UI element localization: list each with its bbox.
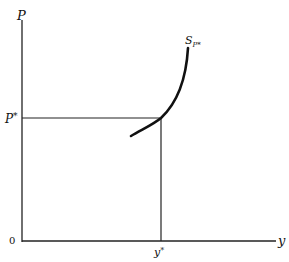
equilibrium-quantity-label: y* [153,246,164,259]
supply-curve [131,48,188,136]
supply-curve-label: SP* [185,34,201,49]
x-axis-label: y [277,233,286,248]
equilibrium-price-label: P* [4,111,18,126]
origin-label: 0 [9,235,15,246]
supply-diagram: P y 0 P* y* SP* [0,0,289,262]
y-axis-label: P [16,8,26,23]
